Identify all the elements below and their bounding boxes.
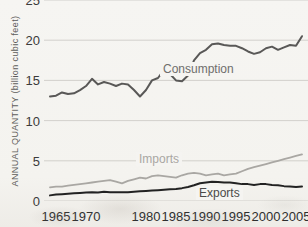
series-label-consumption: Consumption (160, 62, 237, 76)
series-label-exports: Exports (196, 186, 243, 200)
x-tick-1980: 1980 (132, 209, 161, 224)
y-tick-5: 5 (0, 153, 40, 168)
x-tick-1970: 1970 (72, 209, 101, 224)
y-tick-10: 10 (0, 113, 40, 128)
y-tick-25: 25 (0, 0, 40, 8)
y-tick-0: 0 (0, 194, 40, 209)
y-tick-15: 15 (0, 73, 40, 88)
x-tick-1985: 1985 (162, 209, 191, 224)
series-lines (50, 36, 302, 195)
plot-area (44, 0, 308, 201)
x-tick-1965: 1965 (42, 209, 71, 224)
y-axis-tick-labels: 0510152025 (0, 0, 40, 227)
gridlines (44, 0, 308, 201)
series-label-imports: Imports (136, 152, 182, 166)
y-tick-20: 20 (0, 33, 40, 48)
x-tick-2005: 2005 (282, 209, 308, 224)
x-tick-1990: 1990 (192, 209, 221, 224)
x-axis-tick-labels: 19651970198019851990199520002005 (44, 202, 308, 226)
chart-container: ANNUAL QUANTITY (billion cubic feet) 051… (0, 0, 308, 227)
x-tick-1995: 1995 (222, 209, 251, 224)
x-tick-2000: 2000 (252, 209, 281, 224)
plot-svg (44, 0, 308, 201)
